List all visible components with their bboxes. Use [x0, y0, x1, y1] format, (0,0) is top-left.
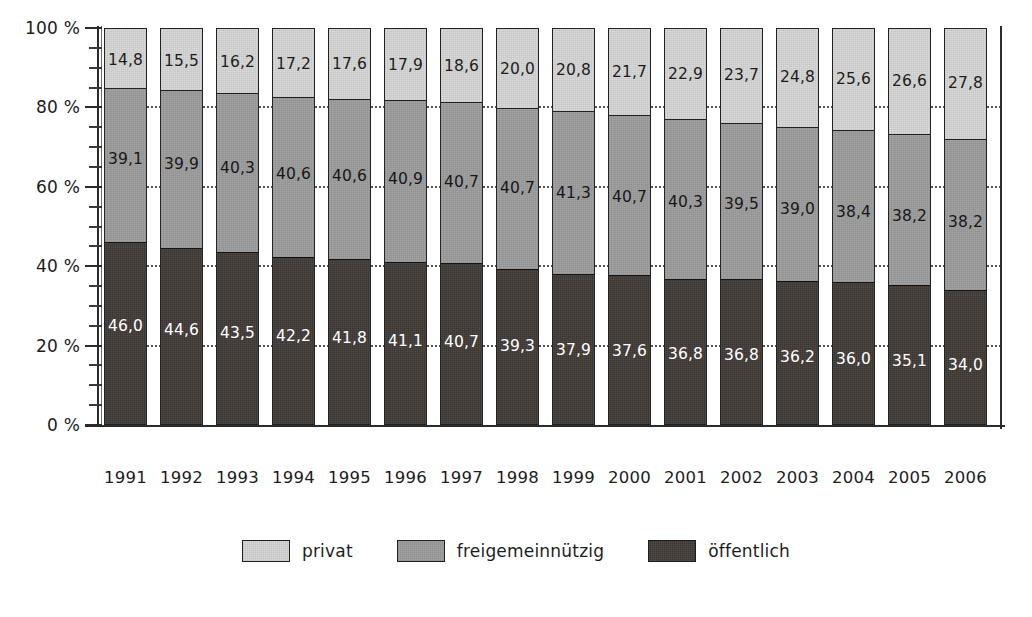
bar-segment-privat[interactable]: 17,9	[385, 29, 426, 100]
bar-segment-privat[interactable]: 27,8	[945, 29, 986, 139]
gridline-mark	[203, 106, 216, 108]
bar-segment-oeffentlich[interactable]: 46,0	[105, 242, 146, 424]
bar-segment-freigemeinnuetzig[interactable]: 40,3	[217, 93, 258, 252]
bar-segment-freigemeinnuetzig[interactable]: 38,2	[889, 134, 930, 285]
bar-column-1996[interactable]: 17,940,941,1	[384, 28, 427, 425]
bar-segment-oeffentlich[interactable]: 37,9	[553, 274, 594, 424]
bar-column-2006[interactable]: 27,838,234,0	[944, 28, 987, 425]
gridline-mark	[651, 265, 664, 267]
bar-segment-oeffentlich[interactable]: 36,8	[721, 279, 762, 424]
bar-segment-privat[interactable]: 16,2	[217, 29, 258, 93]
bar-segment-oeffentlich[interactable]: 44,6	[161, 248, 202, 424]
y-tick-minor	[89, 404, 102, 406]
bar-column-1994[interactable]: 17,240,642,2	[272, 28, 315, 425]
bar-segment-privat[interactable]: 18,6	[441, 29, 482, 102]
bar-segment-privat[interactable]: 20,0	[497, 29, 538, 108]
bar-segment-oeffentlich[interactable]: 41,1	[385, 262, 426, 425]
bar-segment-oeffentlich[interactable]: 36,0	[833, 282, 874, 424]
bar-segment-oeffentlich[interactable]: 34,0	[945, 290, 986, 424]
bar-column-1991[interactable]: 14,839,146,0	[104, 28, 147, 425]
bar-segment-freigemeinnuetzig[interactable]: 40,6	[329, 99, 370, 259]
bar-value-label: 25,6	[833, 72, 874, 88]
chart-legend: privatfreigemeinnützigöffentlich	[0, 540, 1032, 562]
bar-segment-oeffentlich[interactable]: 36,2	[777, 281, 818, 424]
bar-value-label: 36,8	[721, 348, 762, 364]
y-tick-minor	[89, 67, 102, 69]
bar-segment-oeffentlich[interactable]: 43,5	[217, 252, 258, 424]
bar-segment-privat[interactable]: 26,6	[889, 29, 930, 134]
gridline-mark	[763, 106, 776, 108]
bar-value-label: 42,2	[273, 329, 314, 345]
gridline-mark	[707, 106, 720, 108]
bar-segment-freigemeinnuetzig[interactable]: 38,2	[945, 139, 986, 290]
bar-column-1995[interactable]: 17,640,641,8	[328, 28, 371, 425]
y-tick-major	[85, 186, 102, 188]
bar-segment-privat[interactable]: 23,7	[721, 29, 762, 123]
bar-value-label: 20,8	[553, 63, 594, 79]
bar-value-label: 40,7	[441, 175, 482, 191]
gridline-mark	[707, 186, 720, 188]
bar-column-1998[interactable]: 20,040,739,3	[496, 28, 539, 425]
y-tick-minor	[89, 384, 102, 386]
bar-value-label: 40,3	[665, 195, 706, 211]
bar-column-2002[interactable]: 23,739,536,8	[720, 28, 763, 425]
gridline-mark	[315, 106, 328, 108]
bar-value-label: 43,5	[217, 326, 258, 342]
bar-column-2003[interactable]: 24,839,036,2	[776, 28, 819, 425]
gridline-mark	[651, 186, 664, 188]
bar-segment-freigemeinnuetzig[interactable]: 39,1	[105, 88, 146, 243]
bar-column-1997[interactable]: 18,640,740,7	[440, 28, 483, 425]
bar-segment-freigemeinnuetzig[interactable]: 38,4	[833, 130, 874, 282]
gridline-mark	[483, 345, 496, 347]
y-tick-minor	[89, 47, 102, 49]
bar-column-2001[interactable]: 22,940,336,8	[664, 28, 707, 425]
bar-value-label: 39,5	[721, 197, 762, 213]
bar-value-label: 23,7	[721, 68, 762, 84]
bar-segment-oeffentlich[interactable]: 41,8	[329, 259, 370, 424]
bar-segment-oeffentlich[interactable]: 37,6	[609, 275, 650, 424]
bar-segment-privat[interactable]: 17,2	[273, 29, 314, 97]
bar-column-1992[interactable]: 15,539,944,6	[160, 28, 203, 425]
gridline-mark	[595, 345, 608, 347]
bar-segment-freigemeinnuetzig[interactable]: 39,5	[721, 123, 762, 279]
bar-segment-oeffentlich[interactable]: 35,1	[889, 285, 930, 424]
bar-column-2000[interactable]: 21,740,737,6	[608, 28, 651, 425]
bar-segment-privat[interactable]: 17,6	[329, 29, 370, 99]
bar-segment-privat[interactable]: 24,8	[777, 29, 818, 127]
bar-segment-privat[interactable]: 15,5	[161, 29, 202, 90]
bar-segment-privat[interactable]: 14,8	[105, 29, 146, 88]
bar-segment-freigemeinnuetzig[interactable]: 40,7	[609, 115, 650, 276]
bar-segment-oeffentlich[interactable]: 39,3	[497, 269, 538, 424]
gridline-mark	[371, 106, 384, 108]
bar-segment-freigemeinnuetzig[interactable]: 40,7	[441, 102, 482, 263]
bar-column-1999[interactable]: 20,841,337,9	[552, 28, 595, 425]
y-tick-minor	[89, 325, 102, 327]
bar-segment-privat[interactable]: 25,6	[833, 29, 874, 130]
bar-segment-freigemeinnuetzig[interactable]: 41,3	[553, 111, 594, 274]
legend-item-1[interactable]: freigemeinnützig	[397, 540, 604, 562]
legend-item-0[interactable]: privat	[242, 540, 353, 562]
gridline-mark	[595, 265, 608, 267]
bar-segment-privat[interactable]: 21,7	[609, 29, 650, 115]
bar-segment-privat[interactable]: 22,9	[665, 29, 706, 119]
bar-column-1993[interactable]: 16,240,343,5	[216, 28, 259, 425]
bar-segment-freigemeinnuetzig[interactable]: 39,0	[777, 127, 818, 281]
bar-segment-privat[interactable]: 20,8	[553, 29, 594, 111]
bar-segment-oeffentlich[interactable]: 36,8	[665, 279, 706, 424]
bar-segment-freigemeinnuetzig[interactable]: 40,7	[497, 108, 538, 269]
bar-segment-freigemeinnuetzig[interactable]: 40,6	[273, 97, 314, 257]
bar-column-2005[interactable]: 26,638,235,1	[888, 28, 931, 425]
bar-segment-oeffentlich[interactable]: 40,7	[441, 263, 482, 424]
bar-segment-freigemeinnuetzig[interactable]: 39,9	[161, 90, 202, 248]
bar-value-label: 40,9	[385, 172, 426, 188]
x-axis-label-1995: 1995	[320, 468, 380, 487]
bar-segment-oeffentlich[interactable]: 42,2	[273, 257, 314, 424]
legend-swatch-icon	[242, 540, 290, 562]
bar-value-label: 38,2	[945, 215, 986, 231]
bar-segment-freigemeinnuetzig[interactable]: 40,9	[385, 100, 426, 262]
bar-segment-freigemeinnuetzig[interactable]: 40,3	[665, 119, 706, 278]
bar-column-2004[interactable]: 25,638,436,0	[832, 28, 875, 425]
legend-item-2[interactable]: öffentlich	[648, 540, 790, 562]
bar-value-label: 39,9	[161, 157, 202, 173]
gridline-mark	[875, 106, 888, 108]
